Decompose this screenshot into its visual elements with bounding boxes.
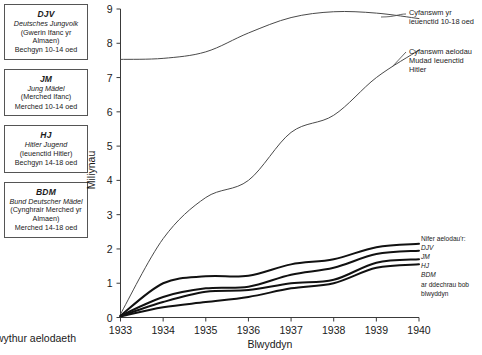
annotation-total-youth-line2: ieuenctid 10-18 oed — [409, 17, 474, 26]
y-tick-label: 8 — [107, 37, 113, 49]
y-tick-label: 1 — [107, 277, 113, 289]
series-line-bdm — [121, 264, 420, 316]
y-tick-label: 4 — [107, 174, 113, 186]
y-tick-label: 0 — [107, 312, 113, 324]
x-tick-label: 1938 — [322, 324, 346, 336]
x-axis-title: Blwyddyn — [248, 338, 293, 350]
y-tick-label: 7 — [107, 72, 113, 84]
annotation-members-footer-line2: blwyddyn — [421, 290, 449, 298]
annotation-total-hj-line1: Cyfanswm aelodau — [409, 47, 472, 56]
annotation-members-footer-line1: ar ddechrau bob — [421, 281, 469, 288]
x-tick-label: 1939 — [365, 324, 389, 336]
x-axis-ticks: 19331934193519361937193819391940 — [109, 318, 431, 336]
y-axis-title: Miliynau — [85, 151, 97, 190]
annotation-total-hj-line2: Mudad Ieuenctid — [409, 56, 464, 65]
line-chart-svg: 0123456789 19331934193519361937193819391… — [0, 0, 482, 355]
annotation-series-label-bdm: BDM — [421, 271, 436, 278]
y-axis-ticks: 0123456789 — [107, 3, 121, 324]
series-paths — [121, 11, 420, 316]
y-tick-label: 5 — [107, 140, 113, 152]
x-tick-label: 1933 — [109, 324, 133, 336]
annotation-series-label-hj: HJ — [421, 262, 430, 269]
annotation-total-hj-line3: Hitler — [409, 65, 427, 74]
annotation-series-label-jm: JM — [420, 253, 430, 260]
chart-plot-area: 0123456789 19331934193519361937193819391… — [0, 0, 482, 355]
annotation-total-youth-line1: Cyfanswm yr — [409, 8, 452, 17]
y-tick-label: 9 — [107, 3, 113, 15]
x-tick-label: 1935 — [194, 324, 218, 336]
x-tick-label: 1937 — [279, 324, 303, 336]
y-tick-label: 3 — [107, 209, 113, 221]
y-tick-label: 2 — [107, 243, 113, 255]
series-line-cyfanswm-yr-ieuenctid-10-18-oed — [121, 11, 420, 59]
annotation-series-label-djv: DJV — [421, 244, 434, 251]
x-tick-label: 1940 — [407, 324, 431, 336]
series-line-cyfanswm-aelodau-mudad-ieuenctid-hitler — [121, 50, 420, 314]
y-tick-label: 6 — [107, 106, 113, 118]
x-tick-label: 1934 — [151, 324, 175, 336]
annotation-members-header: Nifer aelodau'r: — [421, 235, 466, 242]
x-tick-label: 1936 — [237, 324, 261, 336]
chart-page: DJV Deutsches Jungvolk (Gwerin Ifanc yr … — [0, 0, 482, 355]
